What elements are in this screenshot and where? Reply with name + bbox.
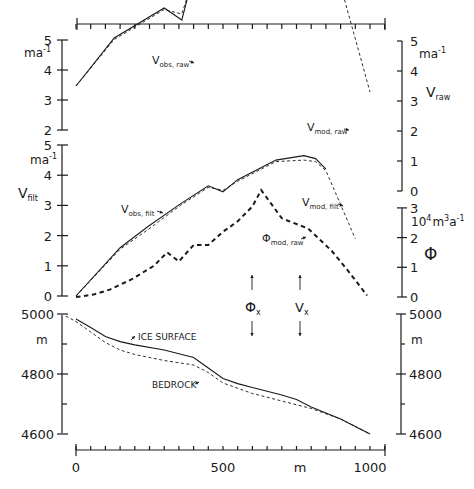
phi-tick-label: 1 (410, 260, 418, 275)
bottom-left-tick-label: 5000 (21, 307, 54, 322)
v-x-marker-label: Vx (295, 300, 309, 317)
mid-left-tick-label: 2 (44, 229, 52, 244)
axes-layer (57, 18, 407, 456)
x-tick-0: 0 (72, 460, 80, 475)
phi-axis-label: Φ (424, 244, 437, 264)
series-v-obs-raw (76, 0, 335, 86)
phi-tick-label: 0 (410, 290, 418, 305)
top-right-tick-label: 0 (410, 184, 418, 199)
v-filt-axis-label: Vfilt (18, 185, 38, 203)
top-left-tick-label: 2 (44, 123, 52, 138)
glacier-profile-figure: 5432543210543210321050005000480048004600… (0, 0, 474, 489)
bottom-left-tick-label: 4600 (21, 427, 54, 442)
bottom-right-unit: m (411, 333, 423, 347)
v-x-up-arrow-head (298, 275, 301, 278)
top-right-tick-label: 3 (410, 94, 418, 109)
phi-tick-label: 3 (410, 201, 418, 216)
v-mod-filt-label: Vmod, filt (302, 196, 339, 211)
top-right-tick-label: 4 (410, 64, 418, 79)
mid-left-tick-label: 1 (44, 259, 52, 274)
series-v-mod-filt (76, 160, 355, 296)
text-layer: 5432543210543210321050005000480048004600… (21, 33, 442, 442)
bedrock-label: BEDROCK (152, 380, 197, 390)
top-left-tick-label: 4 (44, 63, 52, 78)
bottom-left-unit: m (36, 333, 48, 347)
mid-left-tick-label: 3 (44, 198, 52, 213)
top-right-tick-label: 5 (410, 34, 418, 49)
top-left-unit: ma-1 (24, 45, 51, 60)
mid-left-unit: ma-1 (30, 152, 57, 167)
series-ice-surface (76, 319, 370, 434)
series-v-mod-raw (76, 0, 370, 92)
x-tick-500: 500 (211, 460, 236, 475)
bottom-right-tick-label: 4800 (409, 367, 442, 382)
phi-x-down-arrow-head (250, 333, 253, 336)
v-obs-filt-label: Vobs, filt (121, 203, 155, 218)
top-right-unit: ma-1 (419, 46, 446, 61)
phi-x-marker-label: Φx (245, 299, 261, 317)
mid-left-tick-label: 4 (44, 168, 52, 183)
top-left-tick-label: 3 (44, 93, 52, 108)
series-layer (66, 0, 370, 434)
mid-left-tick-label: 0 (44, 289, 52, 304)
top-right-tick-label: 1 (410, 154, 418, 169)
bottom-right-tick-label: 5000 (409, 307, 442, 322)
top-right-tick-label: 2 (410, 124, 418, 139)
v-mod-raw-label: Vmod, raw (307, 121, 348, 136)
v-obs-raw-label: Vobs, raw (152, 54, 190, 69)
mid-left-tick-label: 5 (44, 138, 52, 153)
phi-tick-label: 2 (410, 231, 418, 246)
flux-unit: 104m3a-1 (411, 214, 465, 229)
bottom-right-tick-label: 4600 (409, 427, 442, 442)
v-x-down-arrow-head (298, 333, 301, 336)
ice-surface-label: ICE SURFACE (138, 332, 197, 342)
phi-x-up-arrow-head (250, 275, 253, 278)
bottom-left-tick-label: 4800 (21, 367, 54, 382)
v-raw-axis-label: Vraw (426, 84, 451, 102)
x-tick-1000: 1000 (353, 460, 386, 475)
series-v-obs-filt (76, 156, 326, 296)
phi-mod-raw-label: Φmod, raw (262, 232, 304, 247)
x-axis-unit: m (294, 460, 307, 475)
